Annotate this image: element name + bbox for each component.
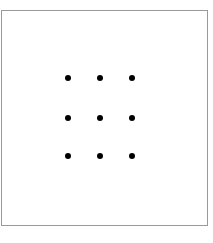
dot-r3c3: [129, 153, 135, 159]
dot-grid: [2, 11, 207, 225]
dot-r1c3: [129, 75, 135, 81]
dot-r1c2: [97, 75, 103, 81]
dot-r2c3: [129, 115, 135, 121]
dot-r3c1: [65, 153, 71, 159]
canvas: [0, 0, 213, 243]
dot-r2c2: [97, 115, 103, 121]
figure-frame: [1, 10, 208, 226]
dot-r3c2: [97, 153, 103, 159]
dot-r2c1: [65, 115, 71, 121]
dot-r1c1: [65, 75, 71, 81]
